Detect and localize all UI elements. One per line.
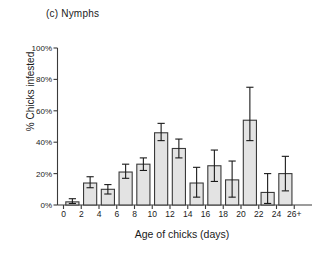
bar-group <box>190 167 203 205</box>
bar-group <box>261 174 274 205</box>
bar-group <box>226 161 239 205</box>
bar-group <box>84 177 97 205</box>
chart-figure: (c) Nymphs % Chicks infested Age of chic… <box>0 0 327 255</box>
bar-group <box>66 199 79 205</box>
bar-group <box>137 158 150 205</box>
bar-group <box>243 87 256 205</box>
chart-plot-area <box>0 0 327 255</box>
bar-group <box>208 150 221 205</box>
bar <box>155 133 168 205</box>
bar-group <box>279 156 292 205</box>
bar-group <box>101 185 114 205</box>
bar-group <box>155 123 168 205</box>
bar-group <box>119 164 132 205</box>
bar-group <box>172 139 185 205</box>
